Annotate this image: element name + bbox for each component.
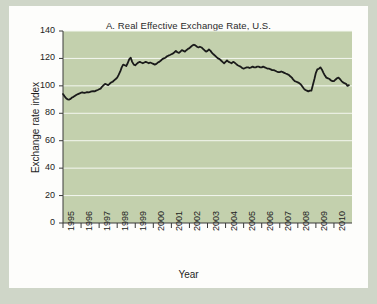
y-axis-ticks <box>59 31 63 223</box>
x-tick-label: 2007 <box>284 211 293 231</box>
y-tick-label: 140 <box>21 26 55 35</box>
x-tick-label: 2006 <box>266 211 275 231</box>
x-axis-title: Year <box>9 269 368 280</box>
plot-background <box>63 31 352 223</box>
y-axis-title: Exchange rate index <box>30 58 41 198</box>
y-tick-label: 0 <box>21 218 55 227</box>
chart-plot-area: 020406080100120140 199519961997199819992… <box>9 6 368 288</box>
x-tick-label: 1996 <box>85 211 94 231</box>
chart-svg <box>9 6 368 288</box>
x-tick-label: 2003 <box>212 211 221 231</box>
x-tick-label: 1999 <box>139 211 148 231</box>
x-tick-label: 1998 <box>121 211 130 231</box>
x-tick-label: 2009 <box>320 211 329 231</box>
x-tick-label: 1995 <box>67 211 76 231</box>
x-tick-label: 2010 <box>338 211 347 231</box>
plot-bg-rect <box>63 31 352 223</box>
x-tick-label: 2000 <box>157 211 166 231</box>
figure-card: A. Real Effective Exchange Rate, U.S. 02… <box>9 6 368 288</box>
x-tick-label: 2008 <box>302 211 311 231</box>
x-tick-label: 1997 <box>103 211 112 231</box>
x-tick-label: 2001 <box>175 211 184 231</box>
x-tick-label: 2004 <box>230 211 239 231</box>
x-tick-label: 2005 <box>248 211 257 231</box>
x-tick-label: 2002 <box>193 211 202 231</box>
